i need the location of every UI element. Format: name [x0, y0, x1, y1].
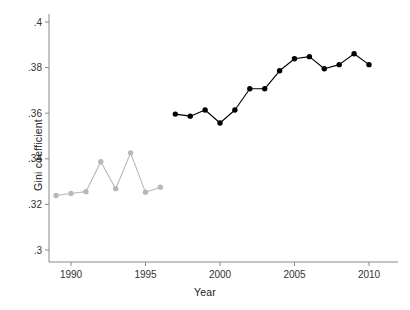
data-point-marker [307, 54, 312, 59]
y-axis-title: Gini coefficient [32, 119, 44, 191]
x-axis-tick-label: 2005 [283, 269, 306, 280]
data-point-marker [351, 51, 356, 56]
data-point-marker [188, 113, 193, 118]
data-point-marker [113, 186, 118, 191]
data-point-marker [262, 86, 267, 91]
y-axis-tick-label: .38 [28, 62, 42, 73]
data-point-marker [202, 107, 207, 112]
x-axis-title: Year [0, 286, 410, 298]
data-point-marker [322, 66, 327, 71]
data-point-marker [337, 62, 342, 67]
data-point-marker [68, 191, 73, 196]
data-point-marker [83, 189, 88, 194]
data-point-marker [217, 120, 222, 125]
x-axis-tick-label: 1995 [134, 269, 157, 280]
y-axis-tick-label: .3 [34, 245, 43, 256]
plot-area: .3.32.34.36.38.419901995200020052010 [0, 0, 410, 310]
data-point-marker [173, 111, 178, 116]
y-axis-tick-label: .36 [28, 108, 42, 119]
data-point-marker [98, 159, 103, 164]
y-axis-tick-label: .4 [34, 17, 43, 28]
data-point-marker [143, 190, 148, 195]
data-point-marker [247, 86, 252, 91]
data-point-marker [292, 56, 297, 61]
data-point-marker [158, 185, 163, 190]
data-point-marker [277, 68, 282, 73]
x-axis-tick-label: 2010 [358, 269, 381, 280]
x-axis-tick-label: 1990 [60, 269, 83, 280]
gini-coefficient-chart: .3.32.34.36.38.419901995200020052010 Gin… [0, 0, 410, 310]
series-line-early-period-series [56, 153, 160, 196]
data-point-marker [366, 62, 371, 67]
data-point-marker [232, 107, 237, 112]
x-axis-tick-label: 2000 [209, 269, 232, 280]
y-axis-tick-label: .32 [28, 199, 42, 210]
data-point-marker [128, 150, 133, 155]
data-point-marker [53, 193, 58, 198]
